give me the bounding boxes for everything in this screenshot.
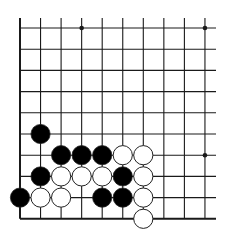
black-stone	[10, 188, 29, 207]
white-stone	[134, 167, 153, 186]
black-stone	[31, 124, 50, 143]
black-stone	[31, 167, 50, 186]
go-board	[0, 0, 231, 233]
white-stone	[52, 188, 71, 207]
black-stone	[113, 167, 132, 186]
black-stone	[113, 188, 132, 207]
star-point	[79, 26, 84, 31]
black-stone	[93, 188, 112, 207]
white-stone	[52, 167, 71, 186]
black-stone	[93, 146, 112, 165]
white-stone	[134, 188, 153, 207]
white-stone	[134, 146, 153, 165]
grid-lines	[20, 18, 216, 219]
black-stone	[72, 146, 91, 165]
star-point	[203, 26, 208, 31]
star-point	[203, 153, 208, 158]
white-stone	[134, 209, 153, 228]
white-stone	[31, 188, 50, 207]
white-stone	[93, 167, 112, 186]
white-stone	[72, 167, 91, 186]
black-stone	[52, 146, 71, 165]
white-stone	[113, 146, 132, 165]
